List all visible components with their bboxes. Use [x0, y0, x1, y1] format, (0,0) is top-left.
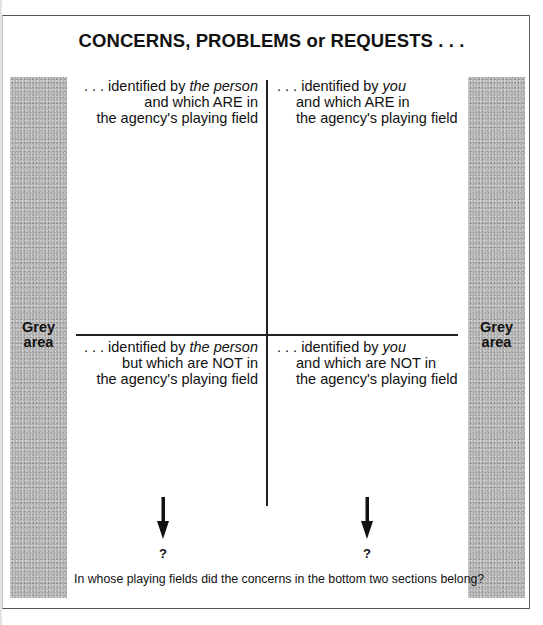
grey-area-right-label-line2: area [468, 335, 525, 350]
quadrant-emphasis: you [383, 339, 406, 355]
quadrant-top-right-line2: and which ARE in [277, 94, 458, 110]
vertical-divider [266, 80, 268, 506]
quadrant-bottom-left-line1: . . . identified by the person [80, 339, 258, 355]
down-arrow-icon [360, 497, 374, 539]
diagram-title: CONCERNS, PROBLEMS or REQUESTS . . . [0, 30, 543, 52]
quadrant-emphasis: you [383, 78, 406, 94]
quadrant-top-right-line1: . . . identified by you [277, 78, 458, 94]
quadrant-top-right-line3: the agency's playing field [277, 110, 458, 126]
quadrant-bottom-right: . . . identified by you and which are NO… [277, 339, 458, 387]
quadrant-top-left-line1: . . . identified by the person [80, 78, 258, 94]
quadrant-bottom-right-line3: the agency's playing field [277, 371, 458, 387]
quadrant-top-right: . . . identified by you and which ARE in… [277, 78, 458, 126]
grey-area-right: Grey area [468, 77, 525, 598]
quadrant-bottom-right-line1: . . . identified by you [277, 339, 458, 355]
quadrant-emphasis: the person [189, 339, 258, 355]
horizontal-divider [76, 334, 458, 336]
question-mark-left: ? [159, 546, 167, 561]
grey-area-right-label: Grey area [468, 320, 525, 350]
quadrant-bottom-left-line3: the agency's playing field [80, 371, 258, 387]
quadrant-bottom-left: . . . identified by the person but which… [80, 339, 258, 387]
footer-question: In whose playing fields did the concerns… [74, 572, 464, 586]
quadrant-top-left: . . . identified by the person and which… [80, 78, 258, 126]
quadrant-top-left-line3: the agency's playing field [80, 110, 258, 126]
grey-area-right-label-line1: Grey [468, 320, 525, 335]
quadrant-prefix: . . . identified by [84, 339, 190, 355]
quadrant-bottom-right-line2: and which are NOT in [277, 355, 458, 371]
grey-area-left: Grey area [10, 77, 67, 598]
quadrant-prefix: . . . identified by [277, 78, 383, 94]
question-mark-right: ? [363, 546, 371, 561]
down-arrow-icon [156, 497, 170, 539]
quadrant-prefix: . . . identified by [277, 339, 383, 355]
grey-area-left-label-line2: area [10, 335, 67, 350]
quadrant-bottom-left-line2: but which are NOT in [80, 355, 258, 371]
grey-area-left-label: Grey area [10, 320, 67, 350]
quadrant-emphasis: the person [189, 78, 258, 94]
quadrant-top-left-line2: and which ARE in [80, 94, 258, 110]
quadrant-prefix: . . . identified by [84, 78, 190, 94]
grey-area-left-label-line1: Grey [10, 320, 67, 335]
